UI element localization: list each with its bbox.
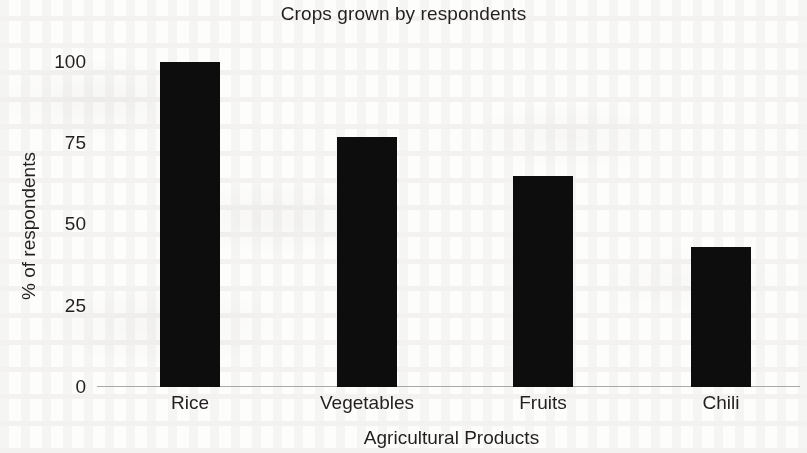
bar-chart: Crops grown by respondents % of responde… bbox=[0, 0, 807, 453]
x-tick-label-vegetables: Vegetables bbox=[320, 392, 414, 414]
x-axis-tick-labels: Rice Vegetables Fruits Chili bbox=[0, 0, 807, 453]
x-tick-label-fruits: Fruits bbox=[519, 392, 567, 414]
x-axis-title: Agricultural Products bbox=[96, 427, 807, 449]
x-tick-label-chili: Chili bbox=[703, 392, 740, 414]
x-tick-label-rice: Rice bbox=[171, 392, 209, 414]
